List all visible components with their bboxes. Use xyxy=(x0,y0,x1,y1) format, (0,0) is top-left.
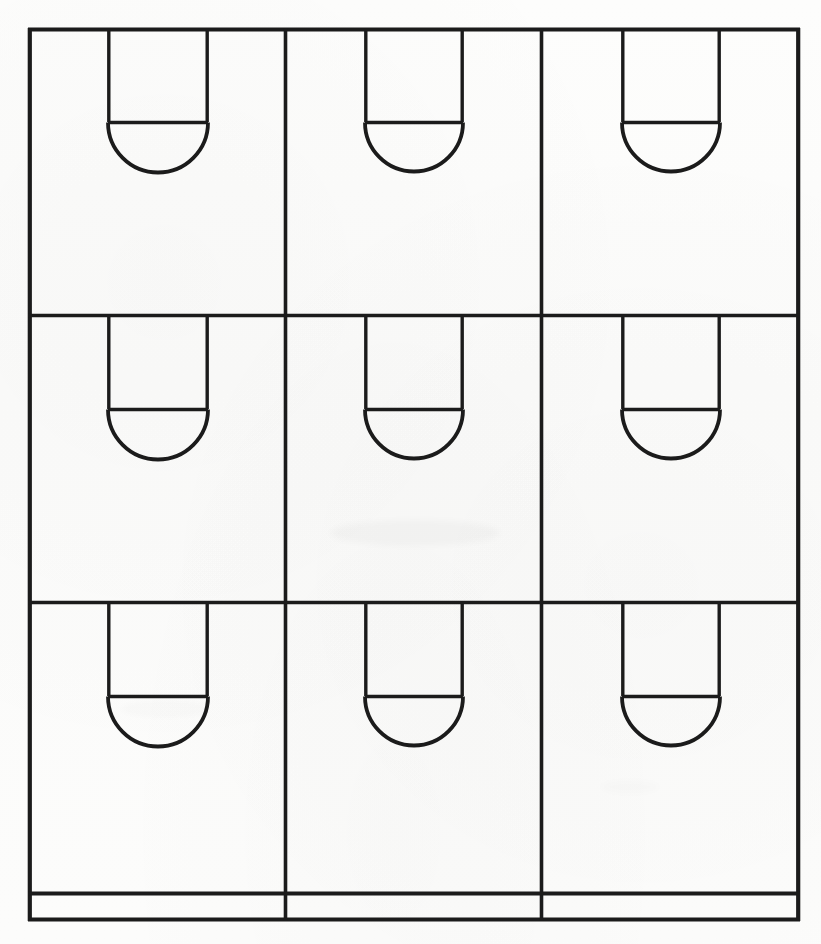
court-key-panel-r3c3 xyxy=(622,604,720,746)
free-throw-arc-panel-r2c3 xyxy=(622,410,720,459)
diagram-page xyxy=(0,0,821,944)
panels-layer xyxy=(108,30,720,746)
free-throw-arc-panel-r3c2 xyxy=(365,697,463,746)
court-key-panel-r1c2 xyxy=(365,30,463,172)
free-throw-arc-panel-r2c1 xyxy=(108,410,208,460)
outer-frame xyxy=(28,28,800,921)
court-key-panel-r1c1 xyxy=(108,30,208,173)
court-key-panel-r2c2 xyxy=(365,317,463,458)
free-throw-arc-panel-r3c3 xyxy=(622,697,720,746)
court-key-panel-r3c2 xyxy=(365,604,463,746)
court-key-panel-r2c3 xyxy=(622,317,720,458)
free-throw-arc-panel-r1c1 xyxy=(108,123,208,173)
free-throw-arc-panel-r3c1 xyxy=(108,697,208,747)
court-key-panel-r2c1 xyxy=(108,317,208,459)
grid-dividers xyxy=(28,28,800,921)
court-key-panel-r3c1 xyxy=(108,604,208,746)
free-throw-arc-panel-r1c2 xyxy=(365,123,463,172)
free-throw-arc-panel-r2c2 xyxy=(365,410,463,459)
court-grid-diagram xyxy=(0,0,821,944)
free-throw-arc-panel-r1c3 xyxy=(622,123,720,172)
court-key-panel-r1c3 xyxy=(622,30,720,172)
